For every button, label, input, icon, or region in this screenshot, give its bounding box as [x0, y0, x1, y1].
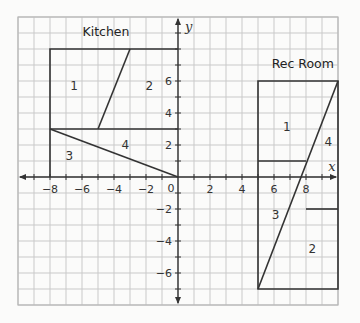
x-tick-label: 6	[271, 183, 278, 196]
y-tick-label: 4	[165, 107, 172, 120]
y-tick-label: −2	[156, 203, 172, 216]
x-tick-label: 8	[303, 183, 310, 196]
room-title: Kitchen	[83, 24, 130, 39]
origin-label: 0	[168, 182, 175, 195]
x-tick-label: 4	[239, 183, 246, 196]
region-label: 4	[121, 138, 129, 152]
y-axis-label: y	[184, 19, 193, 34]
x-tick-label: 2	[207, 183, 214, 196]
y-tick-label: 2	[165, 139, 172, 152]
x-tick-label: −2	[138, 183, 154, 196]
y-tick-label: −4	[156, 235, 172, 248]
room-title: Rec Room	[272, 56, 334, 71]
region-label: 3	[272, 208, 280, 222]
x-tick-label: −6	[74, 183, 90, 196]
region-label: 3	[65, 149, 73, 163]
region-label: 1	[70, 79, 78, 93]
region-label: 2	[309, 242, 317, 256]
x-axis-right-arrow-icon	[330, 174, 337, 180]
x-tick-label: −8	[42, 183, 58, 196]
x-axis-left-arrow-icon	[19, 174, 26, 180]
region-label: 4	[325, 135, 333, 149]
region-label: 2	[145, 79, 153, 93]
y-tick-label: −6	[156, 267, 172, 280]
region-label: 1	[283, 120, 291, 134]
x-axis-label: x	[328, 159, 336, 174]
y-axis-down-arrow-icon	[175, 297, 181, 304]
y-tick-label: 6	[165, 75, 172, 88]
y-axis-up-arrow-icon	[175, 18, 181, 25]
x-tick-label: −4	[106, 183, 122, 196]
coordinate-plane-diagram: −8−6−4−22468642−2−4−60xyKitchen1234Rec R…	[0, 0, 360, 323]
